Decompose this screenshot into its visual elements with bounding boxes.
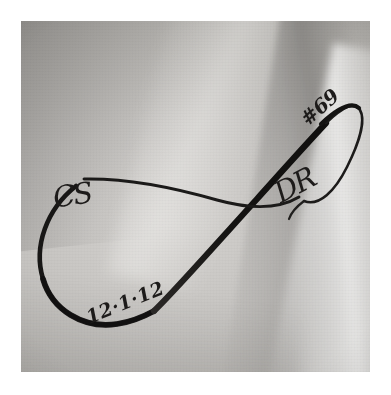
screenshot-root: CS DR #69 12·1·12	[0, 0, 391, 395]
vignette-overlay	[21, 21, 370, 372]
tattoo-photograph: CS DR #69 12·1·12	[21, 21, 370, 372]
